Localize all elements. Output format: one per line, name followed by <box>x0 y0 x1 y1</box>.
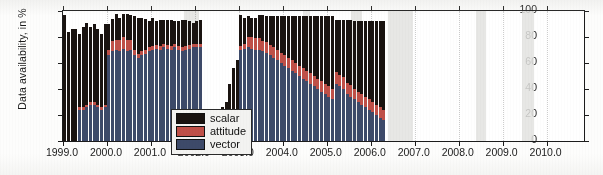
bar-segment-attitude <box>243 44 246 49</box>
x-tick <box>547 141 548 146</box>
bar-segment-attitude <box>382 110 385 120</box>
bar-segment-vector <box>144 54 147 141</box>
x-tick <box>547 6 548 11</box>
bar <box>166 20 169 141</box>
bar <box>155 21 158 141</box>
x-tick <box>107 141 108 146</box>
bar-segment-attitude <box>287 58 290 68</box>
x-tick <box>415 6 416 11</box>
x-tick <box>107 6 108 11</box>
bar <box>276 16 279 141</box>
bar <box>67 32 70 141</box>
bar-segment-scalar <box>67 32 70 141</box>
legend-swatch-vector <box>176 139 205 150</box>
y-tick <box>58 37 63 38</box>
bar <box>144 19 147 141</box>
legend-swatch-scalar <box>176 113 205 124</box>
bar-segment-scalar <box>122 14 125 37</box>
bar-segment-attitude <box>166 45 169 49</box>
bar-segment-scalar <box>353 21 356 89</box>
bar <box>133 16 136 141</box>
x-tick <box>371 6 372 11</box>
bar-segment-scalar <box>331 16 334 89</box>
x-tick <box>327 141 328 146</box>
bar-segment-scalar <box>276 16 279 50</box>
legend-swatch-attitude <box>176 126 205 137</box>
bars-container <box>63 11 584 141</box>
bar-segment-attitude <box>177 46 180 50</box>
y-tick <box>58 115 63 116</box>
scan-band <box>388 11 412 141</box>
bar-segment-vector <box>298 76 301 141</box>
bar-segment-scalar <box>375 21 378 104</box>
bar <box>89 27 92 141</box>
bar-segment-scalar <box>342 20 345 77</box>
bar <box>265 16 268 141</box>
bar <box>382 21 385 141</box>
bar-segment-attitude <box>155 45 158 49</box>
legend-label-attitude: attitude <box>210 126 246 137</box>
bar-segment-scalar <box>188 21 191 44</box>
bar-segment-scalar <box>155 21 158 44</box>
bar-segment-attitude <box>111 41 114 51</box>
bar-segment-attitude <box>298 66 301 76</box>
bar-segment-attitude <box>254 38 257 50</box>
y-tick <box>58 89 63 90</box>
bar-segment-attitude <box>320 81 323 91</box>
x-tick <box>371 141 372 146</box>
bar-segment-vector <box>111 51 114 141</box>
x-tick <box>151 6 152 11</box>
bar-segment-vector <box>100 110 103 141</box>
bar-segment-vector <box>78 110 81 141</box>
bar-segment-attitude <box>353 89 356 99</box>
bar-segment-vector <box>331 99 334 141</box>
bar-segment-attitude <box>375 105 378 115</box>
legend-item-vector: vector <box>176 138 246 151</box>
bar-segment-vector <box>133 55 136 141</box>
bar-segment-scalar <box>133 16 136 50</box>
bar-segment-attitude <box>364 97 367 107</box>
y-tick <box>584 37 589 38</box>
bar <box>353 21 356 141</box>
x-tick <box>459 6 460 11</box>
bar-segment-attitude <box>276 50 279 60</box>
x-tick <box>283 141 284 146</box>
chart-legend: scalar attitude vector <box>171 109 252 155</box>
bar-segment-attitude <box>342 77 345 89</box>
y-tick <box>584 141 589 142</box>
bar-segment-scalar <box>166 20 169 45</box>
bar-segment-vector <box>353 99 356 141</box>
bar <box>78 34 81 141</box>
x-tick <box>415 141 416 146</box>
bar-segment-vector <box>155 49 158 141</box>
bar-segment-attitude <box>331 89 334 99</box>
bar <box>342 20 345 141</box>
bar-segment-attitude <box>265 42 268 52</box>
x-tick <box>503 6 504 11</box>
grid-line-vertical <box>547 11 548 141</box>
y-tick <box>584 115 589 116</box>
bar-segment-scalar <box>199 20 202 43</box>
y-tick <box>58 63 63 64</box>
bar <box>331 16 334 141</box>
y-tick <box>58 11 63 12</box>
x-tick <box>63 141 64 146</box>
bar-segment-vector <box>342 89 345 141</box>
bar-segment-vector <box>265 53 268 141</box>
bar <box>111 19 114 141</box>
bar-segment-scalar <box>111 19 114 41</box>
x-tick <box>459 141 460 146</box>
bar-segment-vector <box>382 120 385 141</box>
legend-label-scalar: scalar <box>210 113 239 124</box>
bar-segment-vector <box>320 92 323 141</box>
bar-segment-attitude <box>309 73 312 83</box>
x-tick <box>503 141 504 146</box>
bar <box>254 18 257 142</box>
x-tick <box>195 6 196 11</box>
legend-item-attitude: attitude <box>176 125 246 138</box>
x-tick <box>239 6 240 11</box>
bar-segment-attitude <box>188 45 191 49</box>
grid-line-vertical <box>503 11 504 141</box>
bar <box>122 14 125 141</box>
bar-segment-scalar <box>287 16 290 58</box>
